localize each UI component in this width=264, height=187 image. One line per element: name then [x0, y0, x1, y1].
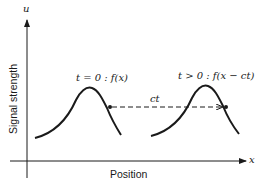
shift-label: ct — [150, 93, 160, 104]
x-axis-label: Position — [110, 168, 147, 180]
pulse-initial — [35, 88, 121, 138]
y-axis-symbol: u — [23, 3, 29, 14]
pulse-shifted — [151, 86, 239, 136]
pulse-initial-label: t = 0 : f(x) — [76, 72, 128, 83]
diagram-canvas — [0, 0, 264, 187]
wave-diagram: u x Signal strength Position t = 0 : f(x… — [0, 0, 264, 187]
x-axis-symbol: x — [249, 154, 255, 165]
pulse-shifted-label: t > 0 : f(x − ct) — [178, 70, 254, 81]
point-initial — [108, 105, 112, 109]
point-shifted — [224, 105, 228, 109]
y-axis-label: Signal strength — [7, 64, 19, 134]
